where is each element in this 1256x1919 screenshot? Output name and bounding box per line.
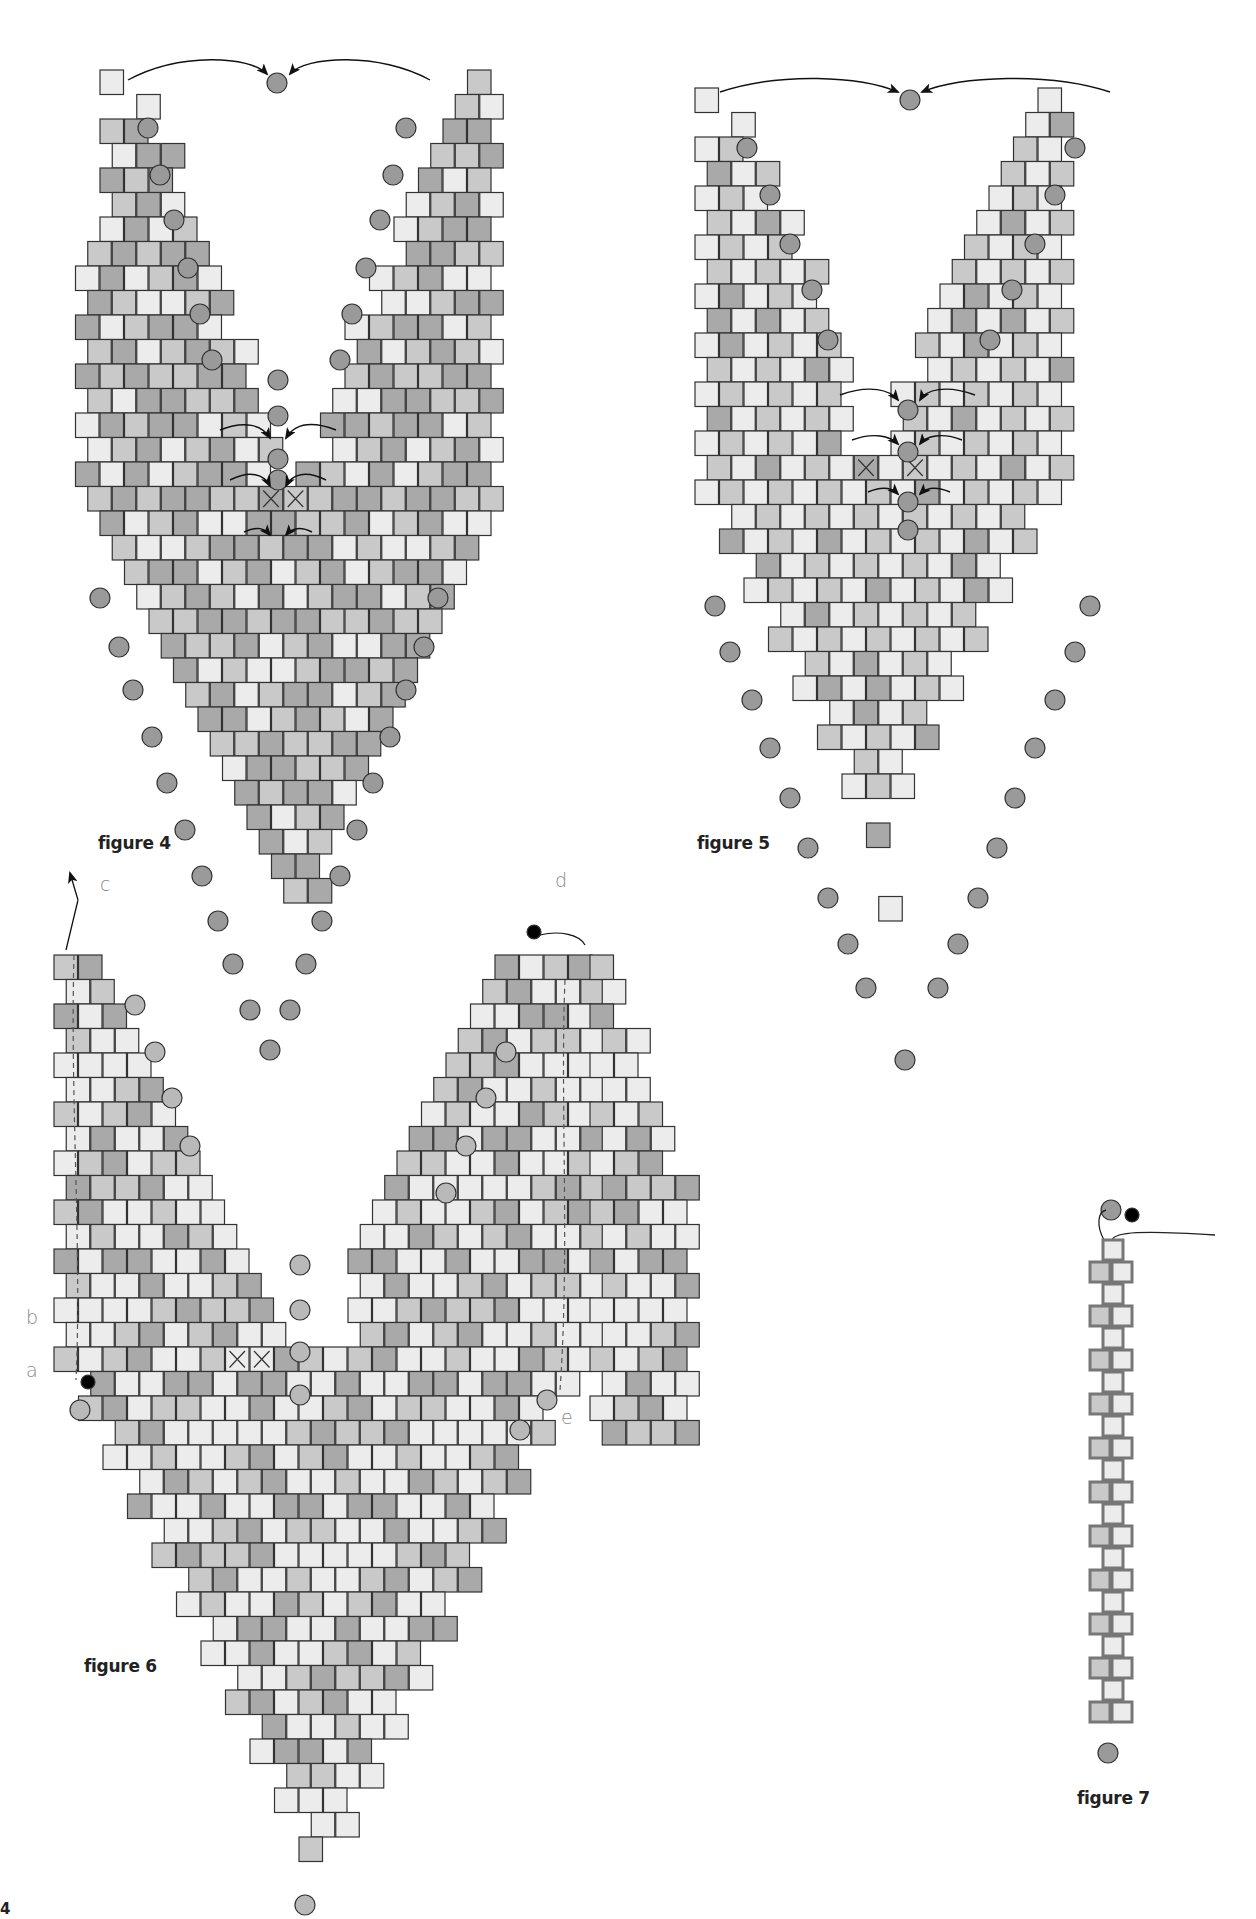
figure-5-label: figure 5 xyxy=(697,833,770,853)
step-label-a: a xyxy=(26,1359,38,1381)
page-number: 4 xyxy=(0,1900,10,1918)
figure-4-diagram xyxy=(76,60,504,1060)
figure-4-label: figure 4 xyxy=(98,833,171,853)
bead-pattern-diagram-canvas xyxy=(0,0,1256,1919)
figure-7-label: figure 7 xyxy=(1077,1788,1150,1808)
figure-5-diagram xyxy=(695,78,1110,1070)
step-label-d: d xyxy=(555,869,567,891)
step-label-b: b xyxy=(26,1306,38,1328)
step-label-c: c xyxy=(100,873,110,895)
figure-6-diagram xyxy=(54,873,699,1915)
step-label-e: e xyxy=(561,1406,573,1428)
figure-6-label: figure 6 xyxy=(84,1656,157,1676)
figure-7-diagram xyxy=(1090,1200,1215,1763)
